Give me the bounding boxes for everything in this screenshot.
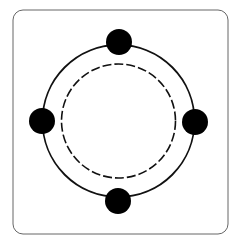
inner-dashed-ring bbox=[62, 64, 176, 178]
node-bottom-icon bbox=[105, 188, 131, 214]
node-top-icon bbox=[106, 29, 132, 55]
outer-ring bbox=[43, 45, 195, 197]
ring-diagram bbox=[0, 0, 231, 243]
node-right-icon bbox=[182, 109, 208, 135]
node-left-icon bbox=[29, 108, 55, 134]
ring-nodes bbox=[29, 29, 208, 214]
